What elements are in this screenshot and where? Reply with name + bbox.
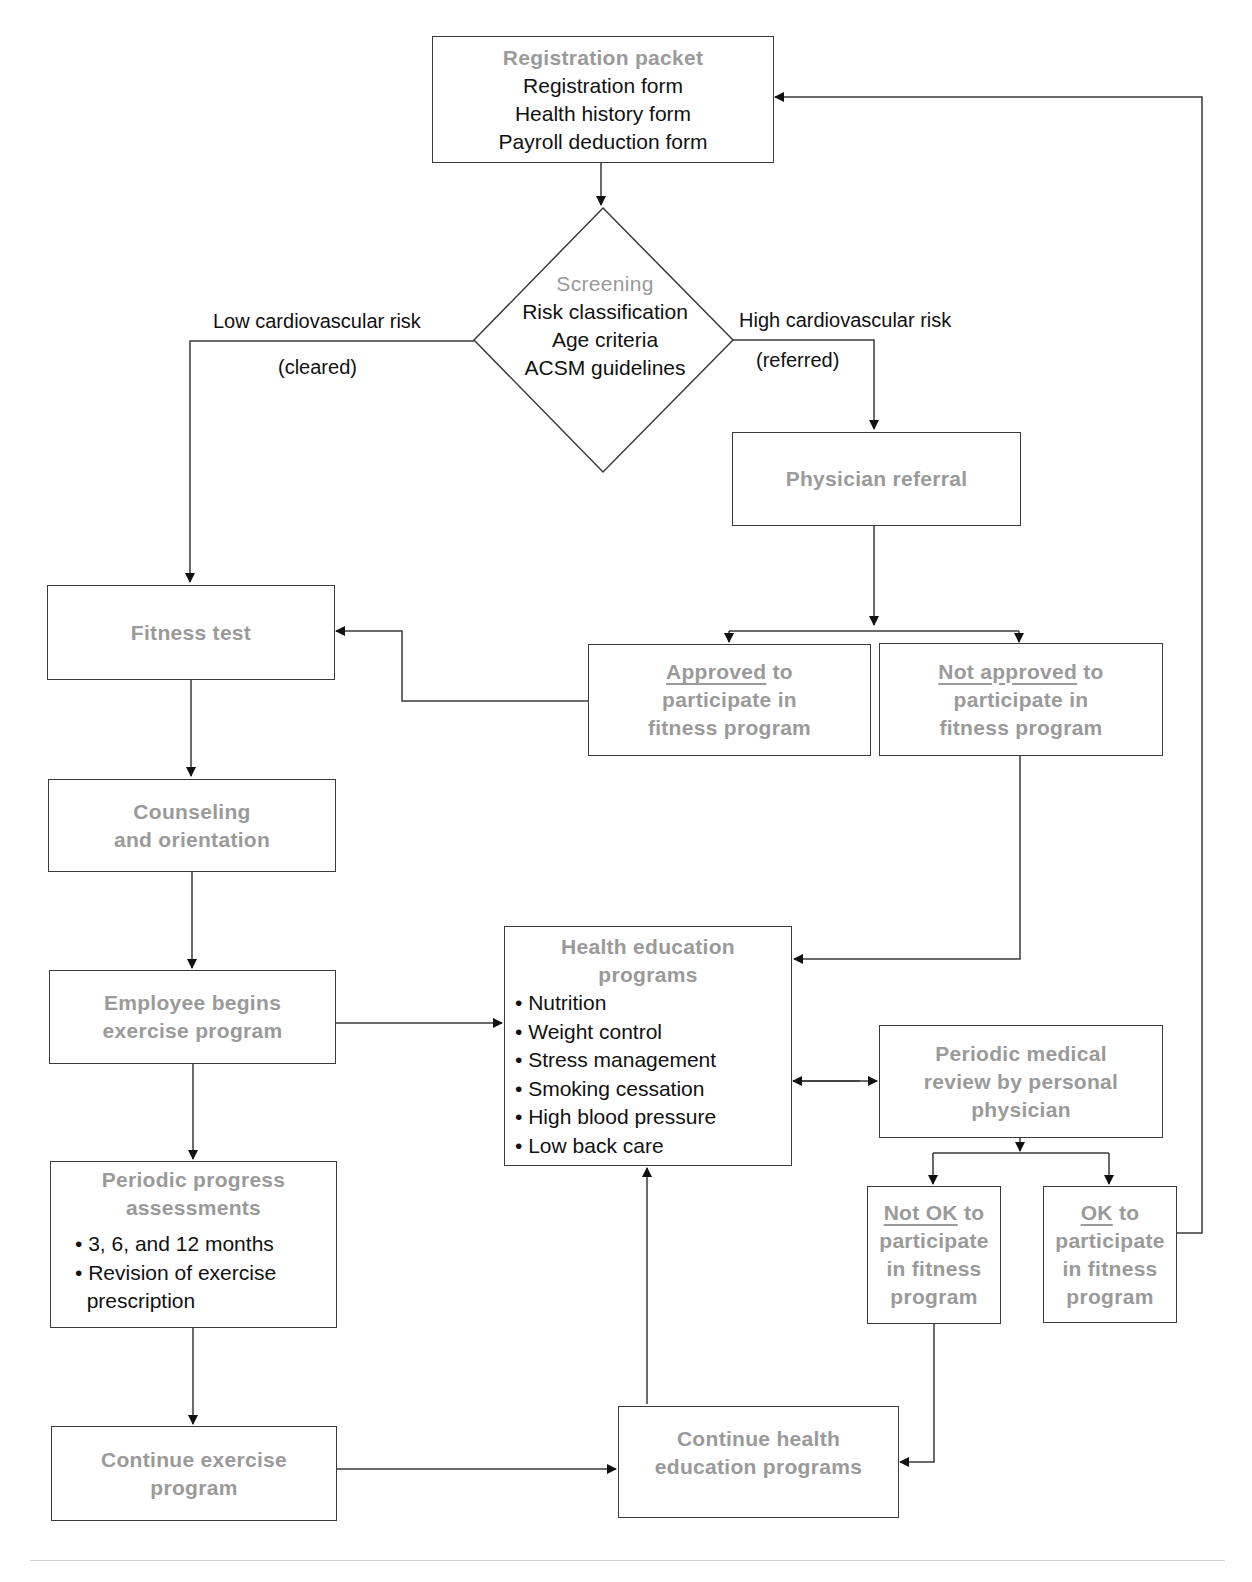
periodic-review-line1: Periodic medical [935,1040,1107,1068]
registration-packet-box: Registration packet Registration form He… [432,36,774,163]
progress-line2: assessments [126,1194,261,1222]
registration-form-line: Registration form [523,72,683,100]
health-education-line2: programs [598,961,697,989]
continue-exercise-box: Continue exercise program [51,1426,337,1521]
physician-referral-title: Physician referral [786,465,968,493]
not-ok-emphasis: Not OK [884,1201,958,1224]
health-history-line: Health history form [515,100,691,128]
ok-emphasis: OK [1081,1201,1113,1224]
counseling-line2: and orientation [114,826,270,854]
list-item-months: • 3, 6, and 12 months [75,1230,276,1259]
age-criteria-line: Age criteria [480,326,730,354]
progress-assessments-box: Periodic progress assessments • 3, 6, an… [50,1161,337,1328]
list-item-low-back-care: • Low back care [515,1132,716,1161]
continue-exercise-line1: Continue exercise [101,1446,287,1474]
periodic-review-box: Periodic medical review by personal phys… [879,1025,1163,1138]
screening-title: Screening [480,270,730,298]
not-approved-line2: participate in [954,686,1089,714]
progress-list: • 3, 6, and 12 months • Revision of exer… [75,1230,276,1316]
not-approved-emphasis: Not approved [938,660,1077,683]
risk-classification-line: Risk classification [480,298,730,326]
ok-line2: participate [1055,1227,1165,1255]
continue-health-box: Continue health education programs [618,1406,899,1518]
health-education-line1: Health education [561,933,735,961]
list-item-stress-management: • Stress management [515,1046,716,1075]
fitness-test-title: Fitness test [131,619,251,647]
not-approved-to: to [1077,660,1104,683]
list-item-prescription: prescription [75,1287,276,1316]
payroll-deduction-line: Payroll deduction form [499,128,708,156]
not-approved-line3: fitness program [939,714,1102,742]
referred-label: (referred) [756,349,839,372]
physician-referral-box: Physician referral [732,432,1021,526]
employee-begins-line2: exercise program [103,1017,283,1045]
approved-line3: fitness program [648,714,811,742]
continue-health-line2: education programs [655,1453,862,1481]
ok-to: to [1113,1201,1140,1224]
not-ok-line2: participate [879,1227,989,1255]
continue-exercise-line2: program [150,1474,237,1502]
ok-box: OK to participate in fitness program [1043,1186,1177,1323]
acsm-guidelines-line: ACSM guidelines [480,354,730,382]
not-ok-line3: in fitness [886,1255,981,1283]
approved-line2: participate in [662,686,797,714]
low-risk-label: Low cardiovascular risk [213,310,421,333]
footer-divider [30,1560,1225,1561]
arrow-not-approved-to-health-ed [794,756,1020,959]
list-item-nutrition: • Nutrition [515,989,716,1018]
health-education-list: • Nutrition • Weight control • Stress ma… [515,989,716,1160]
not-ok-to: to [958,1201,985,1224]
periodic-review-line3: physician [971,1096,1071,1124]
counseling-line1: Counseling [133,798,250,826]
list-item-revision: • Revision of exercise [75,1259,276,1288]
screening-node: Screening Risk classification Age criter… [480,270,730,382]
periodic-review-line2: review by personal [924,1068,1118,1096]
list-item-weight-control: • Weight control [515,1018,716,1047]
employee-begins-line1: Employee begins [104,989,281,1017]
health-education-box: Health education programs • Nutrition • … [504,926,792,1166]
arrow-not-ok-to-continue-health [900,1323,934,1462]
high-risk-label: High cardiovascular risk [739,309,951,332]
not-ok-box: Not OK to participate in fitness program [867,1186,1001,1324]
cleared-label: (cleared) [278,356,357,379]
approved-box: Approved to participate in fitness progr… [588,644,871,756]
continue-health-line1: Continue health [677,1425,840,1453]
arrow-approved-to-fitness-test [336,631,588,701]
registration-packet-title: Registration packet [503,44,704,72]
list-item-high-blood-pressure: • High blood pressure [515,1103,716,1132]
progress-line1: Periodic progress [102,1166,286,1194]
counseling-box: Counseling and orientation [48,779,336,872]
ok-line3: in fitness [1062,1255,1157,1283]
ok-line4: program [1066,1283,1153,1311]
not-approved-box: Not approved to participate in fitness p… [879,643,1163,756]
approved-to: to [766,660,793,683]
list-item-smoking-cessation: • Smoking cessation [515,1075,716,1104]
fitness-test-box: Fitness test [47,585,335,680]
employee-begins-box: Employee begins exercise program [49,970,336,1064]
approved-emphasis: Approved [666,660,766,683]
not-ok-line4: program [890,1283,977,1311]
